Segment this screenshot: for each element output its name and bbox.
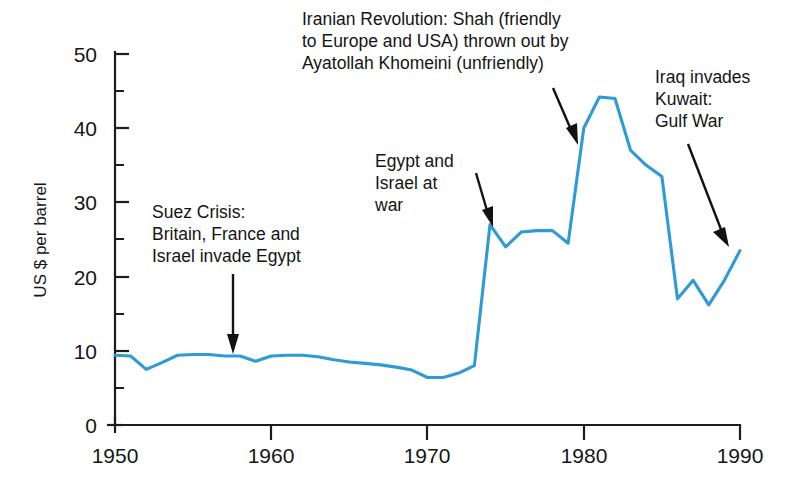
x-tick-label-1970: 1970 <box>404 444 451 467</box>
y-tick-label-50: 50 <box>74 43 97 66</box>
annotation-egypt-israel-war: Egypt and Israel at war <box>374 151 493 227</box>
annotation-iranian-revolution: Iranian Revolution: Shah (friendly to Eu… <box>302 9 578 145</box>
annotation-suez-line-3: Israel invade Egypt <box>152 246 301 266</box>
annotation-gulf-war-arrow-head <box>713 227 729 247</box>
y-tick-label-40: 40 <box>74 117 97 140</box>
annotation-egypt-israel-war-arrow-shaft <box>476 173 488 214</box>
annotation-egypt-israel-war-line-2: Israel at <box>375 173 437 193</box>
x-tick-label-1950: 1950 <box>92 444 139 467</box>
y-tick-labels: 50 40 30 20 10 0 <box>74 43 97 437</box>
chart-canvas: 50 40 30 20 10 0 1950 1960 1970 1980 199… <box>0 0 792 488</box>
annotation-iranian-revolution-line-2: to Europe and USA) thrown out by <box>302 31 569 51</box>
x-tick-label-1990: 1990 <box>717 444 764 467</box>
y-tick-label-0: 0 <box>85 414 97 437</box>
annotation-iranian-revolution-line-1: Iranian Revolution: Shah (friendly <box>302 9 561 29</box>
y-tick-label-20: 20 <box>74 266 97 289</box>
annotation-gulf-war-arrow-shaft <box>688 144 722 232</box>
annotation-iranian-revolution-arrow-head <box>566 123 578 145</box>
annotation-egypt-israel-war-line-1: Egypt and <box>375 151 454 171</box>
annotation-gulf-war-line-1: Iraq invades <box>655 67 751 87</box>
annotation-egypt-israel-war-line-3: war <box>374 195 403 215</box>
annotation-suez: Suez Crisis: Britain, France and Israel … <box>152 202 301 354</box>
annotation-gulf-war-line-2: Kuwait: <box>655 89 712 109</box>
annotation-suez-line-1: Suez Crisis: <box>152 202 245 222</box>
annotation-iranian-revolution-line-3: Ayatollah Khomeini (unfriendly) <box>302 53 544 73</box>
y-axis-title: US $ per barrel <box>31 182 50 297</box>
y-tick-label-10: 10 <box>74 340 97 363</box>
annotation-iranian-revolution-arrow-shaft <box>553 88 572 132</box>
x-tick-labels: 1950 1960 1970 1980 1990 <box>92 444 764 467</box>
annotation-suez-line-2: Britain, France and <box>152 224 300 244</box>
x-tick-label-1980: 1980 <box>561 444 608 467</box>
annotation-gulf-war: Iraq invades Kuwait: Gulf War <box>655 67 751 247</box>
annotation-suez-arrow-head <box>227 334 239 354</box>
annotation-gulf-war-line-3: Gulf War <box>655 111 724 131</box>
annotation-egypt-israel-war-arrow-head <box>482 206 493 227</box>
oil-price-chart: 50 40 30 20 10 0 1950 1960 1970 1980 199… <box>0 0 792 488</box>
x-tick-label-1960: 1960 <box>248 444 295 467</box>
y-tick-label-30: 30 <box>74 191 97 214</box>
